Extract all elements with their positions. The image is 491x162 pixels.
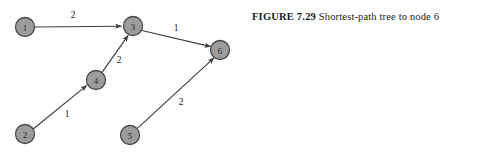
edge-5-to-6 [138,58,214,128]
node-4: 4 [87,71,106,90]
node-6-label: 6 [218,46,223,56]
node-2-label: 2 [23,130,28,140]
edge-weight-2-4: 1 [65,109,70,119]
edge-1-to-3 [35,26,122,27]
node-4-label: 4 [94,76,99,86]
figure-caption-label: FIGURE 7.29 [252,11,316,22]
node-1: 1 [16,18,35,37]
node-6: 6 [211,41,230,60]
shortest-path-tree-graph: 2 2 1 1 2 1 2 3 4 [0,0,250,162]
edge-4-to-3 [102,35,128,72]
node-5: 5 [121,126,140,145]
node-5-label: 5 [128,131,133,141]
edge-weight-1-3: 2 [71,10,76,20]
node-1-label: 1 [23,23,28,33]
figure-caption: FIGURE 7.29 Shortest-path tree to node 6 [252,10,487,23]
figure-caption-text: Shortest-path tree to node 6 [319,11,439,22]
node-3-label: 3 [131,22,136,32]
node-group: 1 2 3 4 5 6 [16,17,230,145]
edge-2-to-4 [33,85,87,129]
edge-weight-4-3: 2 [117,55,122,65]
figure-page: 2 2 1 1 2 1 2 3 4 [0,0,491,162]
edge-group [33,26,214,129]
edge-weight-5-6: 2 [179,97,184,107]
node-2: 2 [16,125,35,144]
node-3: 3 [124,17,143,36]
edge-weight-3-6: 1 [174,23,179,33]
